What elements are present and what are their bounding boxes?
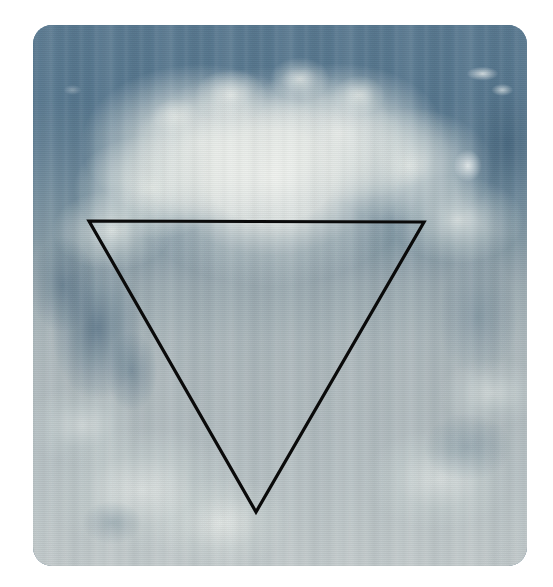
vignette-overlay: [33, 25, 527, 566]
photo-frame: [33, 25, 527, 566]
artwork-canvas: [0, 0, 553, 587]
